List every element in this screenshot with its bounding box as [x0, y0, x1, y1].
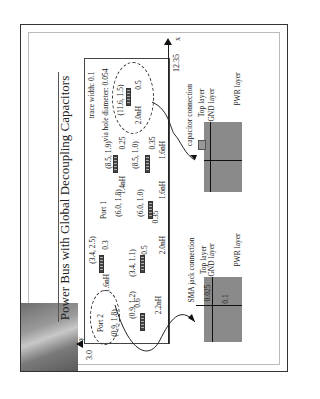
- cap-pwr-layer-label: PWR layer: [233, 67, 243, 111]
- connector-curve-sma: [110, 300, 200, 370]
- cap-coord: (6.0, 1.0): [136, 185, 146, 221]
- cap-coord: (11.6, 1.5): [116, 80, 126, 120]
- capacitor-connection-title: capacitor connection: [185, 75, 195, 155]
- port-2-label: Port 2: [96, 308, 106, 338]
- cap-spacing: 0.5: [140, 242, 150, 258]
- x-axis-label: x: [173, 33, 183, 45]
- cap-coord: (3.4, 1.1): [128, 245, 138, 281]
- port-1-coord: (6.0, 1.8): [114, 183, 124, 223]
- capacitor-pad: [113, 155, 118, 173]
- sma-dim-top: 0.025: [203, 280, 213, 306]
- cap-coord: (3.4, 2.5): [88, 232, 98, 268]
- cap-spacing: 0.25: [118, 132, 128, 154]
- cap-spacing: 0.3: [101, 237, 111, 253]
- title-underline: [58, 72, 59, 322]
- cap-via-line: [204, 160, 242, 161]
- port-1-label: Port 1: [99, 195, 109, 225]
- cap-spacing: 0.5: [134, 77, 144, 93]
- trace-width-note: trace width: 0.1: [87, 60, 97, 130]
- cap-inductance: 2.0nH: [158, 232, 168, 258]
- cap-spacing: 0.35: [151, 206, 161, 228]
- y-axis-max: 3.0: [85, 345, 95, 365]
- cap-top-layer-label: Top layer: [197, 83, 207, 123]
- cap-gnd-layer-label: GND layer: [207, 83, 217, 127]
- cap-gnd-line: [210, 122, 211, 192]
- cap-pad: [198, 140, 206, 150]
- x-axis-line: [168, 44, 169, 344]
- cap-inductance: 1.6nH: [158, 177, 168, 203]
- sma-jack-title: SMA jack connection: [187, 230, 197, 310]
- x-axis-max: 12.35: [172, 48, 182, 78]
- capacitor-pad: [126, 88, 131, 106]
- sma-pwr-layer-label: PWR layer: [233, 228, 243, 272]
- cap-coord: (8.5, 1.0): [131, 137, 141, 173]
- sma-gnd-layer-label: GND layer: [207, 238, 217, 282]
- slide-title: Power Bus with Global Decoupling Capacit…: [57, 73, 73, 323]
- x-axis-arrow-icon: [164, 38, 172, 45]
- y-axis-label: y: [76, 334, 86, 344]
- cap-inductance: 2.0nH: [134, 102, 144, 128]
- sma-dim-total: 0.1: [221, 291, 231, 307]
